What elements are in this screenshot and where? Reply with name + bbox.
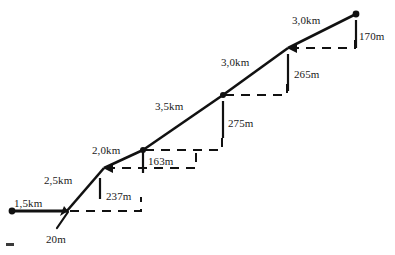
slope-profile-svg — [0, 0, 395, 255]
rise-label-2: 237m — [106, 190, 131, 202]
diagram-canvas: 1,5km 2,5km 2,0km 3,5km 3,0km 3,0km 20m … — [0, 0, 395, 255]
rise-label-3: 163m — [148, 155, 173, 167]
rise-label-6: 170m — [359, 30, 384, 42]
arrowhead-group — [60, 44, 297, 216]
rise-label-1: 20m — [46, 233, 66, 245]
scan-artifact-mark — [6, 243, 14, 246]
rise-label-5: 265m — [294, 68, 319, 80]
node-marker-summit — [353, 11, 360, 18]
rise-label-4: 275m — [228, 117, 253, 129]
slope-label-1: 1,5km — [14, 197, 42, 209]
slope-label-2: 2,5km — [44, 174, 72, 186]
slope-label-4: 3,5km — [155, 100, 183, 112]
slope-label-5: 3,0km — [221, 56, 249, 68]
dashed-guide-3 — [145, 136, 222, 150]
node-marker-4 — [220, 92, 226, 98]
slope-label-3: 2,0km — [92, 144, 120, 156]
dashed-guide-group — [70, 34, 355, 211]
slope-label-6: 3,0km — [292, 14, 320, 26]
rise-tick-group — [100, 20, 356, 199]
